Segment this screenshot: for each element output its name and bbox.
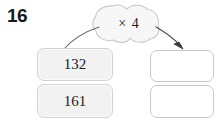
input-box-2: 161 [37, 84, 113, 118]
function-machine-worksheet: 16 × 4 132 161 [0, 0, 217, 123]
rule-label: × 4 [95, 5, 159, 43]
output-arrowhead [174, 42, 183, 49]
output-box-1[interactable] [150, 50, 214, 82]
input-curve [64, 27, 99, 49]
input-box-1: 132 [37, 48, 113, 81]
output-box-2[interactable] [150, 85, 214, 118]
